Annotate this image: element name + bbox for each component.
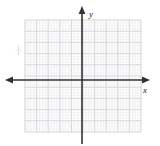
coordinate-grid-figure: y x [0,0,160,146]
coordinate-plane-svg: y x [0,0,160,146]
left-edge-tick-mark [16,45,22,55]
y-axis-arrow-up [79,6,86,14]
x-axis-arrow-right [142,77,150,84]
y-axis-label: y [88,9,93,19]
x-axis-label: x [142,85,147,95]
x-axis-arrow-left [5,77,13,84]
